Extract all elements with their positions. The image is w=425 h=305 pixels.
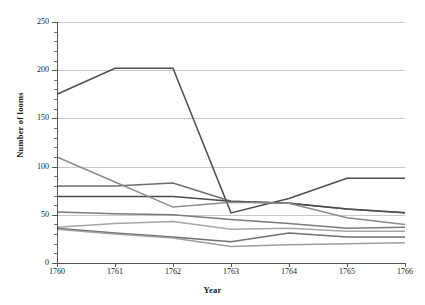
series-line-series-6 bbox=[57, 222, 405, 232]
y-tick bbox=[52, 70, 57, 71]
x-tick-label: 1766 bbox=[382, 267, 425, 276]
y-axis-line bbox=[57, 22, 58, 264]
y-minor-tick bbox=[54, 109, 57, 110]
plot-area bbox=[57, 22, 405, 263]
chart-figure: 050100150200250 176017611762176317641765… bbox=[0, 0, 425, 305]
series-lines bbox=[57, 22, 405, 263]
y-minor-tick bbox=[54, 224, 57, 225]
y-tick bbox=[52, 22, 57, 23]
y-minor-tick bbox=[54, 128, 57, 129]
y-minor-tick bbox=[54, 176, 57, 177]
y-minor-tick bbox=[54, 186, 57, 187]
y-tick-label: 250 bbox=[0, 18, 49, 26]
y-minor-tick bbox=[54, 234, 57, 235]
y-tick-label: 50 bbox=[0, 211, 49, 219]
y-tick bbox=[52, 118, 57, 119]
x-tick-label: 1764 bbox=[266, 267, 312, 276]
y-minor-tick bbox=[54, 61, 57, 62]
y-minor-tick bbox=[54, 41, 57, 42]
series-line-series-7 bbox=[57, 228, 405, 241]
y-minor-tick bbox=[54, 89, 57, 90]
y-minor-tick bbox=[54, 253, 57, 254]
y-minor-tick bbox=[54, 147, 57, 148]
x-tick-label: 1765 bbox=[324, 267, 370, 276]
series-line-series-5 bbox=[57, 212, 405, 228]
y-minor-tick bbox=[54, 32, 57, 33]
series-line-series-3 bbox=[57, 196, 405, 212]
y-minor-tick bbox=[54, 244, 57, 245]
x-tick-label: 1762 bbox=[150, 267, 196, 276]
x-tick-label: 1760 bbox=[34, 267, 80, 276]
series-line-series-2 bbox=[57, 183, 405, 213]
x-tick-label: 1761 bbox=[92, 267, 138, 276]
series-line-series-1 bbox=[57, 68, 405, 213]
y-tick bbox=[52, 167, 57, 168]
y-tick bbox=[52, 215, 57, 216]
y-axis-title: Number of looms bbox=[15, 65, 25, 185]
y-tick-label: 0 bbox=[0, 259, 49, 267]
y-minor-tick bbox=[54, 138, 57, 139]
x-axis-title: Year bbox=[0, 285, 425, 295]
y-minor-tick bbox=[54, 80, 57, 81]
y-minor-tick bbox=[54, 196, 57, 197]
y-minor-tick bbox=[54, 157, 57, 158]
y-minor-tick bbox=[54, 99, 57, 100]
y-minor-tick bbox=[54, 51, 57, 52]
x-tick-label: 1763 bbox=[208, 267, 254, 276]
y-minor-tick bbox=[54, 205, 57, 206]
